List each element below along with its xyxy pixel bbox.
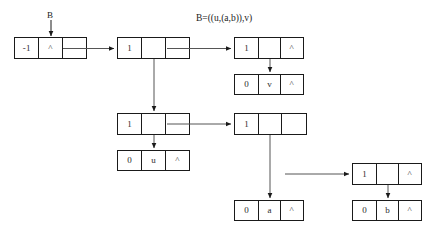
leaf-node-v: 0 v ^: [234, 74, 304, 95]
leaf-node-v-cell-value: v: [259, 75, 280, 94]
head-node-cell-tag: -1: [15, 38, 39, 58]
leaf-node-b-cell-next: ^: [399, 201, 421, 220]
expression-title: B=((u,(a,b)),v): [196, 14, 252, 24]
far-right-node-cell-right: ^: [399, 164, 421, 184]
mid-left-node-cell-tag: 1: [118, 114, 142, 134]
root-node-cell-left: [142, 38, 165, 58]
right-top-node-cell-left: [259, 38, 280, 58]
right-top-node-cell-right: ^: [281, 38, 303, 58]
leaf-node-u-cell-next: ^: [166, 151, 189, 170]
diagram-canvas: B B=((u,(a,b)),v) -1 ^ 1 1 ^ 0 v ^ 1 0 u…: [0, 0, 431, 236]
root-node-cell-right: [166, 38, 189, 58]
root-node: 1: [117, 37, 190, 59]
far-right-node-cell-left: [377, 164, 398, 184]
far-right-node-cell-tag: 1: [353, 164, 377, 184]
entry-pointer-label: B: [47, 11, 53, 20]
mid-right-node: 1: [234, 113, 307, 135]
leaf-node-b: 0 b ^: [352, 200, 422, 221]
right-top-node: 1 ^: [234, 37, 304, 59]
mid-right-node-cell-tag: 1: [235, 114, 259, 134]
far-right-node: 1 ^: [352, 163, 422, 185]
head-node-cell-left: ^: [39, 38, 62, 58]
head-node-cell-right: [63, 38, 86, 58]
right-top-node-cell-tag: 1: [235, 38, 259, 58]
root-node-cell-tag: 1: [118, 38, 142, 58]
leaf-node-v-cell-tag: 0: [235, 75, 259, 94]
mid-left-node-cell-right: [166, 114, 189, 134]
mid-right-node-cell-left: [259, 114, 281, 134]
leaf-node-u: 0 u ^: [117, 150, 190, 171]
mid-right-node-cell-right: [282, 114, 306, 134]
mid-left-node: 1: [117, 113, 190, 135]
mid-left-node-cell-left: [142, 114, 165, 134]
leaf-node-a-cell-tag: 0: [235, 201, 259, 220]
head-node: -1 ^: [14, 37, 87, 59]
leaf-node-b-cell-tag: 0: [353, 201, 377, 220]
leaf-node-a: 0 a ^: [234, 200, 304, 221]
leaf-node-a-cell-value: a: [259, 201, 280, 220]
leaf-node-u-cell-tag: 0: [118, 151, 142, 170]
leaf-node-v-cell-next: ^: [281, 75, 303, 94]
leaf-node-u-cell-value: u: [142, 151, 165, 170]
leaf-node-a-cell-next: ^: [281, 201, 303, 220]
leaf-node-b-cell-value: b: [377, 201, 398, 220]
